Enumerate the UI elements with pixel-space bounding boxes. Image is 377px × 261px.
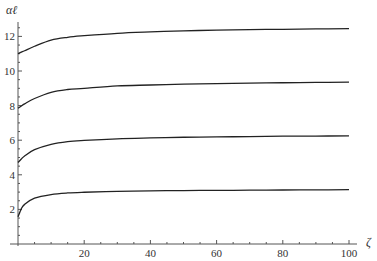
y-tick-label: 10 (4, 65, 16, 77)
y-tick-label: 4 (10, 169, 16, 181)
y-tick-label: 8 (10, 100, 16, 112)
y-tick-label: 12 (4, 30, 15, 42)
line-chart: 2040608010024681012 αℓ ζ (0, 0, 377, 261)
series-line-2 (18, 136, 349, 163)
x-axis-label: ζ (366, 235, 372, 249)
series-line-3 (18, 82, 349, 108)
axes: 2040608010024681012 (4, 22, 358, 259)
curves (18, 29, 349, 217)
x-tick-label: 80 (277, 247, 289, 259)
y-axis-label: αℓ (6, 3, 17, 17)
x-tick-label: 100 (341, 247, 358, 259)
series-line-4 (18, 29, 349, 54)
y-tick-label: 6 (10, 134, 16, 146)
x-tick-label: 20 (79, 247, 91, 259)
y-tick-label: 2 (10, 203, 16, 215)
series-line-1 (18, 190, 349, 217)
x-tick-label: 40 (145, 247, 157, 259)
x-tick-label: 60 (211, 247, 223, 259)
